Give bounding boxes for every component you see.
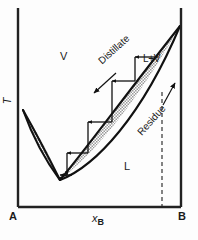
- x-axis-label: xB: [92, 212, 104, 227]
- x-axis-start-label: A: [9, 210, 17, 222]
- residue-arrow: [163, 83, 175, 105]
- region-label-two-phase: L+V: [143, 53, 160, 64]
- x-axis-end-label: B: [178, 210, 186, 222]
- liquid-bubble-curve: [23, 110, 60, 180]
- region-label-vapour: V: [60, 50, 67, 62]
- phase-diagram-figure: T xB A B V L L+V Distillate Residue: [0, 0, 198, 240]
- phase-diagram-canvas: [0, 0, 198, 240]
- x-axis-label-subscript: B: [98, 217, 105, 227]
- y-axis-label: T: [1, 98, 13, 105]
- distillate-arrow: [94, 73, 116, 93]
- region-label-liquid: L: [124, 160, 130, 172]
